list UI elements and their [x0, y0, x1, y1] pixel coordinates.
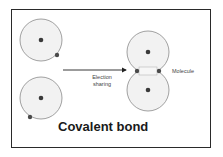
- atom-1: [20, 19, 62, 61]
- atom-2: [20, 77, 62, 119]
- electron-icon: [55, 53, 59, 57]
- molecule: [127, 31, 169, 111]
- electron-icon: [28, 115, 32, 119]
- nucleus-icon: [146, 50, 151, 55]
- nucleus-icon: [39, 38, 44, 43]
- arrow-label: Election sharing: [80, 74, 124, 88]
- molecule-label: Molecule: [172, 68, 194, 74]
- shared-electron-icon: [135, 69, 139, 73]
- diagram-title: Covalent bond: [58, 119, 148, 134]
- nucleus-icon: [146, 88, 151, 93]
- nucleus-icon: [39, 96, 44, 101]
- shared-electron-icon: [157, 69, 161, 73]
